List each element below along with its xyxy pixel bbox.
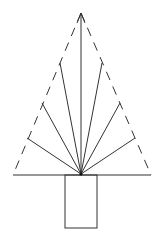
trunk — [65, 175, 97, 228]
tree-diagram — [0, 0, 161, 242]
ray-line — [42, 103, 81, 174]
left-dashed-edge — [13, 13, 81, 175]
dashed-outline — [13, 13, 151, 175]
ray-line — [27, 138, 81, 174]
ray-line — [81, 103, 120, 174]
ray-line — [81, 138, 135, 174]
ray-line — [60, 63, 81, 174]
ray-line — [81, 63, 102, 174]
rays — [27, 13, 135, 174]
hub-point — [79, 172, 82, 175]
